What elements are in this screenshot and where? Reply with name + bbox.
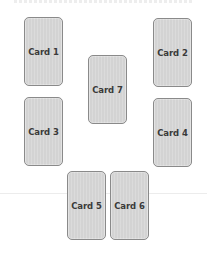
card-label: Card 3 (28, 127, 59, 137)
card-5[interactable]: Card 5 (67, 171, 106, 240)
card-label: Card 4 (157, 128, 188, 138)
card-6[interactable]: Card 6 (110, 171, 149, 240)
card-2[interactable]: Card 2 (153, 18, 192, 87)
card-3[interactable]: Card 3 (24, 97, 63, 166)
card-7[interactable]: Card 7 (88, 55, 127, 124)
card-label: Card 1 (28, 47, 59, 57)
card-1[interactable]: Card 1 (24, 17, 63, 86)
card-label: Card 7 (92, 85, 123, 95)
card-label: Card 6 (114, 201, 145, 211)
card-label: Card 5 (71, 201, 102, 211)
card-label: Card 2 (157, 48, 188, 58)
card-4[interactable]: Card 4 (153, 98, 192, 167)
cropped-heading-fragment (14, 0, 194, 3)
